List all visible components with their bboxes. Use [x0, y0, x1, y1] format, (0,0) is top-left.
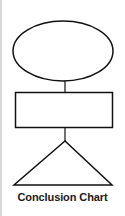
conclusion-chart-diagram: [0, 0, 125, 216]
bottom-triangle-shape: [14, 141, 112, 185]
diagram-caption: Conclusion Chart: [0, 190, 125, 204]
middle-rectangle-shape: [16, 93, 113, 128]
top-ellipse-shape: [13, 21, 113, 81]
